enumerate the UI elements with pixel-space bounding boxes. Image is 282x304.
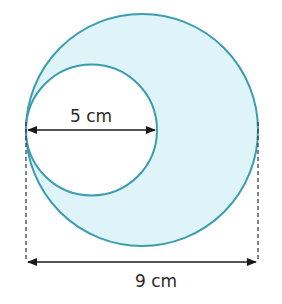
circles-diagram: 5 cm 9 cm	[0, 0, 282, 304]
inner-diameter-label: 5 cm	[70, 106, 112, 126]
outer-diameter-label: 9 cm	[135, 271, 177, 291]
